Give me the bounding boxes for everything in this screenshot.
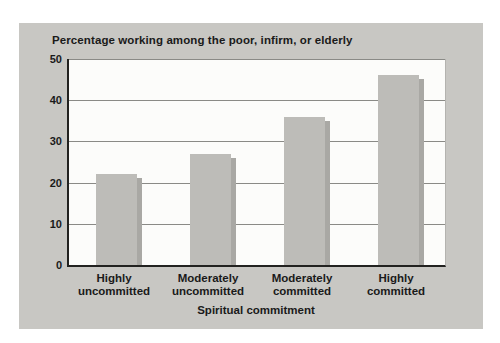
y-tick-label-40: 40 [50, 94, 62, 106]
gridline-50 [69, 59, 445, 60]
y-tick-label-50: 50 [50, 53, 62, 65]
bar-moderately-uncommitted [190, 154, 231, 265]
chart-title: Percentage working among the poor, infir… [52, 34, 353, 46]
y-axis-ticks: 01020304050 [19, 59, 62, 265]
bar-highly-committed [378, 75, 419, 265]
y-tick-label-10: 10 [50, 218, 62, 230]
x-tick-label-highly-committed: Highly committed [367, 272, 425, 298]
x-tick-label-moderately-uncommitted: Moderately uncommitted [172, 272, 244, 298]
bar-highly-uncommitted [96, 174, 137, 265]
figure-panel: Percentage working among the poor, infir… [19, 23, 483, 329]
y-tick-label-30: 30 [50, 135, 62, 147]
y-tick-label-20: 20 [50, 177, 62, 189]
x-tick-label-highly-uncommitted: Highly uncommitted [78, 272, 150, 298]
x-axis-labels: Highly uncommittedModerately uncommitted… [67, 272, 445, 302]
bar-moderately-committed [284, 117, 325, 265]
x-axis-title: Spiritual commitment [67, 304, 445, 316]
y-tick-label-0: 0 [56, 259, 62, 271]
x-tick-label-moderately-committed: Moderately committed [272, 272, 333, 298]
plot-area [67, 59, 446, 267]
